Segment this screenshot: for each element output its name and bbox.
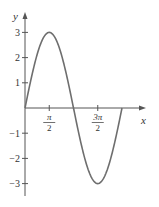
axes: y x: [12, 10, 146, 196]
x-axis-arrow-icon: [139, 106, 146, 111]
y-tick-label: −2: [9, 153, 20, 164]
y-axis-arrow-icon: [23, 12, 28, 19]
x-tick-label-numerator: π: [47, 112, 52, 122]
sine-chart: y x 321−1−2−3 π23π2: [0, 0, 159, 207]
y-tick-label: 2: [15, 52, 20, 63]
y-tick-label: −1: [9, 128, 20, 139]
x-tick-label-denominator: 2: [47, 123, 52, 133]
y-axis-label: y: [12, 10, 18, 22]
x-tick-label-denominator: 2: [96, 123, 101, 133]
y-tick-label: −3: [9, 178, 20, 189]
x-tick-label-numerator: 3π: [92, 112, 103, 122]
y-tick-label: 1: [15, 77, 20, 88]
x-axis-label: x: [140, 114, 146, 126]
y-tick-label: 3: [15, 27, 20, 38]
